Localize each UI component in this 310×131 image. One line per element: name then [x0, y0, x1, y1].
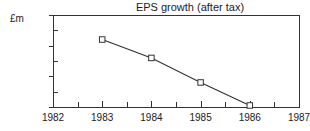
data-series-line	[53, 15, 300, 108]
data-point-1983	[99, 37, 105, 43]
x-tick-label-1983: 1983	[91, 112, 113, 123]
x-tick-label-1984: 1984	[140, 112, 162, 123]
x-tick-label-1982: 1982	[42, 112, 64, 123]
data-point-1985	[198, 80, 204, 86]
data-point-1986	[247, 103, 253, 109]
plot-area: 0102030 198219831984198519861987	[53, 15, 300, 108]
series-polyline	[102, 40, 250, 106]
x-tick-label-1987: 1987	[288, 112, 310, 123]
x-tick-label-1985: 1985	[189, 112, 211, 123]
data-point-1984	[149, 55, 155, 61]
chart-figure: EPS growth (after tax) £m 0102030 198219…	[0, 0, 310, 131]
x-tick-label-1986: 1986	[239, 112, 261, 123]
y-axis-unit-label: £m	[10, 13, 24, 24]
chart-title: EPS growth (after tax)	[110, 1, 270, 14]
